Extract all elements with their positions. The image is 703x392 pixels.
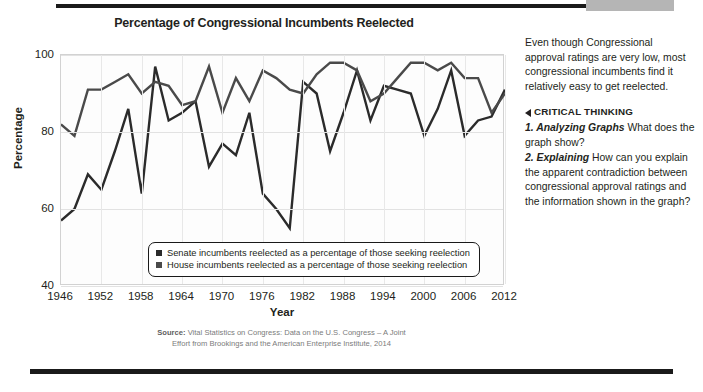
question-1: 1. Analyzing Graphs What does the graph … [525,121,695,150]
gridline-horizontal [61,286,503,287]
series-line-house [61,63,505,136]
y-tick-label: 80 [41,125,54,137]
legend-item-senate: Senate incumbents reelected as a percent… [156,247,470,259]
chart-legend: Senate incumbents reelected as a percent… [148,242,480,277]
source-label: Source: [157,328,185,337]
triangle-left-icon [525,109,531,117]
sidebar-commentary: Even though Congressional approval ratin… [525,36,695,210]
top-dark-rule [56,4,674,8]
x-tick-label: 1988 [330,290,356,302]
x-tick-label: 1952 [88,290,114,302]
gridline-vertical [142,55,143,284]
question-2-title: 2. Explaining [525,152,589,163]
legend-swatch-house [156,262,162,268]
legend-swatch-senate [156,250,162,256]
x-tick-label: 1970 [209,290,235,302]
legend-label-senate: Senate incumbents reelected as a percent… [167,247,470,259]
page-root: Percentage of Congressional Incumbents R… [0,0,703,392]
x-tick-label: 1946 [47,290,73,302]
chart-source: Source: Vital Statistics on Congress: Da… [54,327,509,349]
critical-thinking-header: CRITICAL THINKING [525,105,695,120]
x-tick-label: 1994 [370,290,396,302]
y-tick-label: 60 [41,202,54,214]
gridline-horizontal [61,132,503,133]
source-line-1: Vital Statistics on Congress: Data on th… [186,328,406,337]
x-axis-title: Year [60,306,504,318]
critical-thinking-label: CRITICAL THINKING [534,105,633,120]
x-tick-label: 2000 [410,290,436,302]
legend-label-house: House incumbents reelected as a percenta… [167,259,467,271]
question-1-title: 1. Analyzing Graphs [525,122,625,133]
gridline-vertical [101,55,102,284]
legend-item-house: House incumbents reelected as a percenta… [156,259,470,271]
series-line-senate [61,67,505,229]
y-tick-label: 100 [35,48,54,60]
x-tick-label: 2012 [491,290,517,302]
top-gray-block [586,0,674,11]
chart-title: Percentage of Congressional Incumbents R… [14,16,514,30]
sidebar-paragraph: Even though Congressional approval ratin… [525,36,695,94]
x-tick-label: 1964 [168,290,194,302]
gridline-horizontal [61,209,503,210]
y-axis-title: Percentage [12,107,24,169]
x-tick-label: 1976 [249,290,275,302]
gridline-horizontal [61,55,503,56]
x-tick-label: 2006 [451,290,477,302]
source-line-2: Effort from Brookings and the American E… [172,339,391,348]
bottom-dark-rule [30,369,673,374]
x-tick-label: 1982 [289,290,315,302]
question-2: 2. Explaining How can you explain the ap… [525,151,695,209]
gridline-vertical [505,55,506,284]
chart-panel: Percentage of Congressional Incumbents R… [14,14,514,359]
x-tick-label: 1958 [128,290,154,302]
